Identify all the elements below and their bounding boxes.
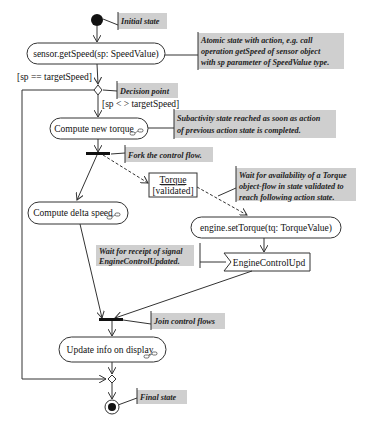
subactivity-compute-torque: Compute new torque <box>50 118 148 139</box>
svg-text:reach following action state.: reach following action state. <box>239 193 335 202</box>
svg-text:Subactivity state reached as s: Subactivity state reached as soon as act… <box>177 114 321 123</box>
merge-node <box>108 375 116 383</box>
initial-state-node <box>91 14 103 26</box>
svg-text:Wait for availability of a Tor: Wait for availability of a Torque <box>239 171 347 180</box>
svg-text:Fork the control flow.: Fork the control flow. <box>127 151 202 160</box>
svg-text:Wait for receipt of signal: Wait for receipt of signal <box>99 247 183 256</box>
note-final-state: Final state <box>137 388 187 404</box>
join-bar <box>99 318 123 321</box>
svg-text:with sp parameter of SpeedValu: with sp parameter of SpeedValue type. <box>201 58 329 67</box>
note-initial-text: Initial state <box>120 17 160 26</box>
object-torque: Torque [validated] <box>149 173 197 197</box>
svg-text:Final state: Final state <box>139 393 177 402</box>
svg-text:of previous action state is co: of previous action state is completed. <box>177 126 301 135</box>
action-get-speed: sensor.getSpeed(sp: SpeedValue) <box>27 43 165 64</box>
svg-text:Decision point: Decision point <box>119 87 170 96</box>
fork-bar <box>86 152 110 155</box>
svg-text:Compute delta speed: Compute delta speed <box>33 208 113 218</box>
svg-text:Atomic state with action, e.g.: Atomic state with action, e.g. call <box>200 36 313 45</box>
svg-text:operation getSpeed of sensor o: operation getSpeed of sensor object <box>201 47 321 56</box>
note-atomic-state: Atomic state with action, e.g. call oper… <box>198 32 344 70</box>
svg-text:EngineControlUpd: EngineControlUpd <box>233 258 306 268</box>
subactivity-update-display: Update info on display <box>59 337 166 362</box>
note-fork: Fork the control flow. <box>125 145 213 163</box>
decision-node <box>94 85 102 95</box>
svg-text:Update info on display: Update info on display <box>67 345 154 355</box>
svg-text:[validated]: [validated] <box>152 186 193 196</box>
guard-not-equal: [sp < > targetSpeed] <box>102 99 179 109</box>
note-initial-state: Initial state <box>118 12 167 30</box>
svg-text:Compute new torque: Compute new torque <box>54 124 134 134</box>
note-decision-point: Decision point <box>117 81 178 99</box>
svg-text:EngineControlUpdated.: EngineControlUpdated. <box>98 257 180 266</box>
action-set-torque: engine.setTorque(tq: TorqueValue) <box>191 217 341 238</box>
signal-receipt-engine-control: EngineControlUpd <box>224 253 310 271</box>
svg-text:object-flow in state validated: object-flow in state validated to <box>239 182 344 191</box>
svg-text:engine.setTorque(tq: TorqueVal: engine.setTorque(tq: TorqueValue) <box>200 223 332 234</box>
svg-text:Torque: Torque <box>160 175 187 185</box>
note-subactivity: Subactivity state reached as soon as act… <box>174 109 336 139</box>
note-join: Join control flows <box>151 311 225 330</box>
final-state-node <box>105 400 119 414</box>
svg-text:sensor.getSpeed(sp: SpeedValue: sensor.getSpeed(sp: SpeedValue) <box>33 49 159 60</box>
svg-text:Join control flows: Join control flows <box>153 317 215 326</box>
note-signal: Wait for receipt of signal EngineControl… <box>96 245 194 266</box>
subactivity-compute-delta: Compute delta speed <box>28 202 128 224</box>
guard-equal: [sp == targetSpeed] <box>17 72 92 82</box>
activity-diagram: Initial state Atomic state with action, … <box>0 0 383 431</box>
note-object-flow: Wait for availability of a Torque object… <box>236 166 356 202</box>
